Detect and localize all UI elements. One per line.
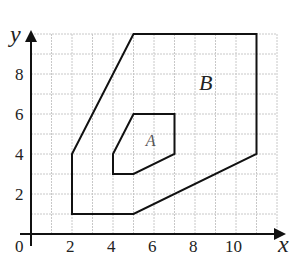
x-tick-label: 8: [189, 237, 198, 256]
origin-label: 0: [15, 237, 24, 256]
y-tick-label: 4: [15, 145, 24, 164]
y-axis-label: y: [8, 21, 21, 47]
y-axis-arrow-icon: [25, 30, 37, 42]
x-tick-label: 2: [66, 237, 75, 256]
y-tick-labels: 2 4 6 8: [15, 65, 24, 204]
x-axis-label: x: [277, 231, 289, 257]
polygon-b-label: B: [199, 70, 212, 95]
y-tick-label: 6: [15, 105, 24, 124]
polygon-a: [113, 114, 175, 174]
x-tick-label: 10: [225, 237, 242, 256]
x-tick-label: 4: [107, 237, 116, 256]
shapes: B A: [72, 34, 257, 214]
y-tick-label: 8: [15, 65, 24, 84]
coordinate-diagram: x y 0 2 4 6 8 10 2 4 6 8 B A: [0, 0, 303, 264]
x-tick-labels: 2 4 6 8 10: [66, 237, 242, 256]
polygon-b: [72, 34, 257, 214]
polygon-a-label: A: [145, 132, 156, 149]
y-tick-label: 2: [15, 185, 24, 204]
x-tick-label: 6: [148, 237, 157, 256]
